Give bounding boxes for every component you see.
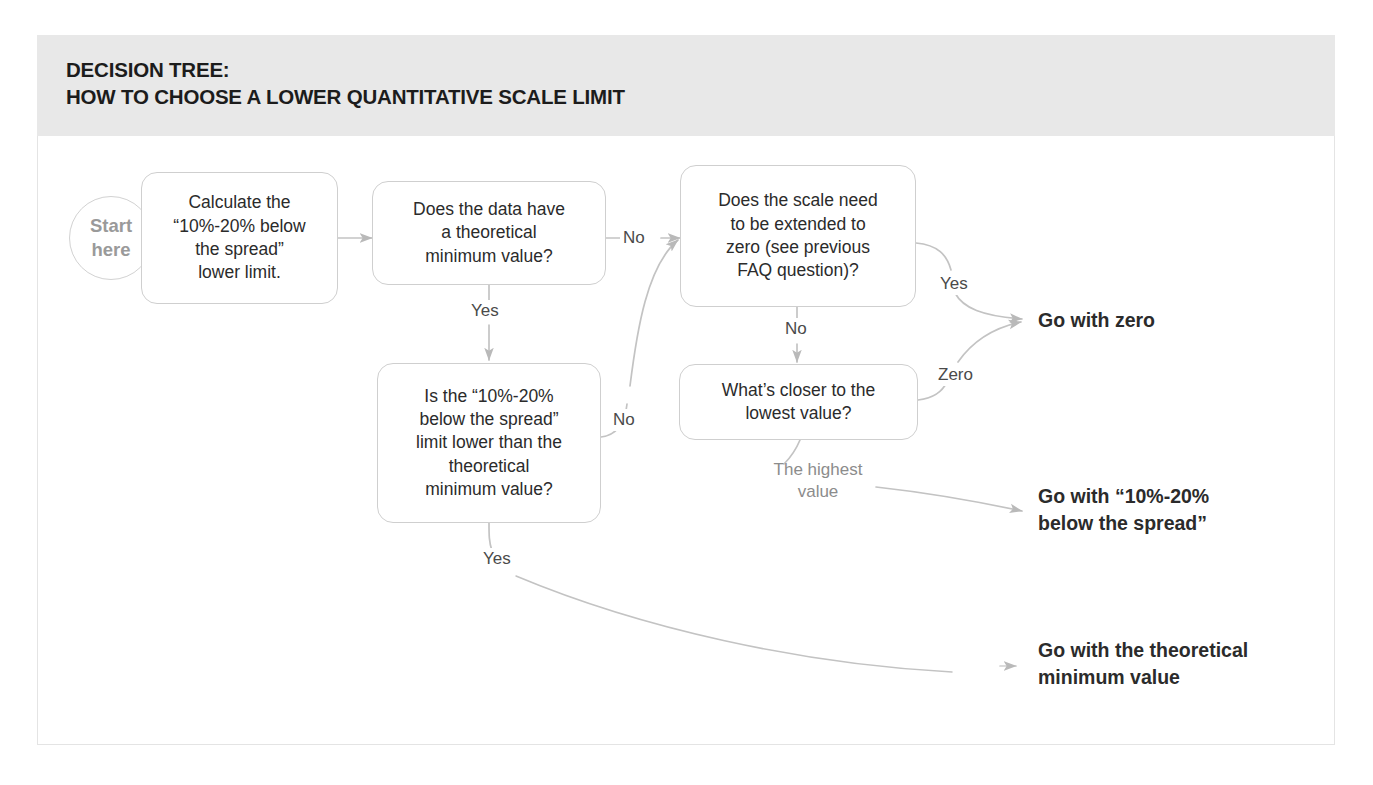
outcome-go-with-zero: Go with zero xyxy=(1038,307,1155,334)
node-whats-closer[interactable]: What’s closer to the lowest value? xyxy=(679,364,918,440)
edge-label-yes-to-theoretical: Yes xyxy=(480,548,514,570)
node-limit-lower-than-theoretical[interactable]: Is the “10%-20% below the spread” limit … xyxy=(377,363,601,523)
edge-label-zero-to-zero: Zero xyxy=(935,364,976,386)
node-has-theoretical-minimum[interactable]: Does the data have a theoretical minimum… xyxy=(372,181,606,285)
outcome-go-with-spread: Go with “10%-20% below the spread” xyxy=(1038,483,1209,537)
node-extend-to-zero[interactable]: Does the scale need to be extended to ze… xyxy=(680,165,916,307)
edge-label-no-curve-up: No xyxy=(610,409,638,431)
edge-label-no-top: No xyxy=(620,227,648,249)
edge-label-no-to-whats-closer: No xyxy=(782,318,810,340)
edge-label-the-highest-value: The highest value xyxy=(755,459,881,503)
decision-tree-page: DECISION TREE: HOW TO CHOOSE A LOWER QUA… xyxy=(0,0,1373,785)
header-band: DECISION TREE: HOW TO CHOOSE A LOWER QUA… xyxy=(37,35,1335,136)
node-calculate[interactable]: Calculate the “10%-20% below the spread”… xyxy=(141,172,338,304)
edge-label-yes-to-zero: Yes xyxy=(937,273,971,295)
edge-label-yes-down: Yes xyxy=(468,300,502,322)
page-title: DECISION TREE: HOW TO CHOOSE A LOWER QUA… xyxy=(66,56,625,111)
outcome-go-with-theoretical-minimum: Go with the theoretical minimum value xyxy=(1038,637,1248,691)
